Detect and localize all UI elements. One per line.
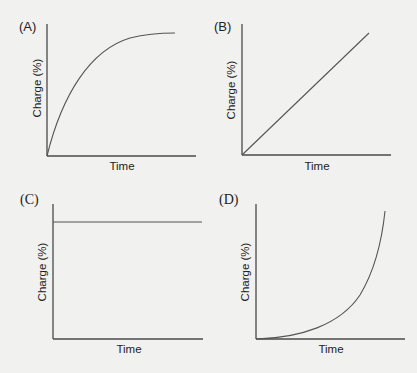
panel-a-x-label: Time: [109, 160, 134, 172]
panel-b-y-label: Charge (%): [225, 60, 237, 119]
panel-d-label: (D): [219, 192, 239, 208]
panel-a: (A) Time Charge (%): [19, 19, 196, 172]
panel-a-curve: [47, 33, 175, 156]
panel-c-y-label: Charge (%): [36, 242, 48, 301]
panel-d-curve: [256, 211, 385, 339]
panel-d-x-label: Time: [318, 343, 343, 355]
panel-c-label: (C): [20, 192, 39, 208]
panel-c: (C) Time Charge (%): [20, 192, 203, 355]
panel-a-label: (A): [19, 19, 36, 34]
charge-vs-time-figure: (A) Time Charge (%) (B) Time Charge (%) …: [0, 0, 417, 373]
panel-b-line: [242, 33, 369, 155]
panel-b-x-label: Time: [304, 160, 329, 172]
panel-d: (D) Time Charge (%): [219, 192, 405, 355]
panel-d-y-label: Charge (%): [239, 242, 251, 301]
panel-c-x-label: Time: [116, 343, 141, 355]
panel-b: (B) Time Charge (%): [214, 19, 391, 172]
panel-a-y-label: Charge (%): [31, 58, 43, 117]
panel-b-label: (B): [214, 19, 231, 34]
